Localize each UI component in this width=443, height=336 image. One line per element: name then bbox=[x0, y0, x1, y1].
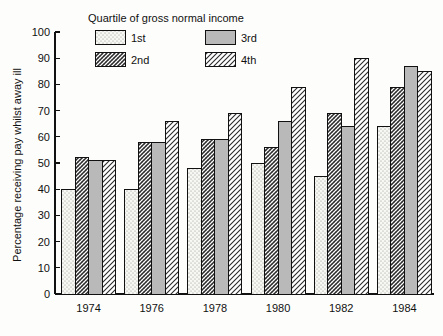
bar bbox=[75, 158, 89, 294]
legend-label: 4th bbox=[241, 54, 256, 66]
bar bbox=[391, 87, 405, 294]
bar bbox=[377, 126, 391, 294]
y-tick-label: 90 bbox=[38, 52, 50, 64]
legend-title: Quartile of gross normal income bbox=[88, 12, 244, 24]
y-tick-label: 40 bbox=[38, 183, 50, 195]
x-axis: 197419761978198019821984 bbox=[55, 294, 434, 314]
chart-figure: 0102030405060708090100 19741976197819801… bbox=[0, 0, 443, 336]
x-tick-label: 1982 bbox=[329, 302, 353, 314]
y-tick-label: 30 bbox=[38, 209, 50, 221]
y-axis: 0102030405060708090100 bbox=[32, 26, 60, 300]
bar bbox=[292, 87, 306, 294]
y-tick-label: 100 bbox=[32, 26, 50, 38]
y-tick-label: 80 bbox=[38, 78, 50, 90]
bar bbox=[265, 147, 279, 294]
x-tick-label: 1980 bbox=[266, 302, 290, 314]
bar bbox=[102, 160, 116, 294]
legend-swatch bbox=[205, 52, 235, 66]
legend-swatch bbox=[95, 52, 125, 66]
bar bbox=[138, 142, 152, 294]
legend-label: 3rd bbox=[241, 32, 257, 44]
bar bbox=[251, 163, 264, 294]
y-tick-label: 10 bbox=[38, 262, 50, 274]
bar bbox=[152, 142, 166, 294]
bar bbox=[228, 113, 242, 294]
bar bbox=[188, 168, 202, 294]
x-tick-label: 1984 bbox=[392, 302, 416, 314]
y-tick-label: 50 bbox=[38, 157, 50, 169]
bars-layer bbox=[62, 58, 432, 294]
x-tick-label: 1978 bbox=[203, 302, 227, 314]
bar bbox=[201, 139, 215, 294]
bar-chart-canvas: 0102030405060708090100 19741976197819801… bbox=[0, 0, 443, 336]
bar bbox=[355, 58, 369, 294]
x-tick-label: 1976 bbox=[140, 302, 164, 314]
bar bbox=[341, 126, 355, 294]
bar bbox=[165, 121, 179, 294]
legend-swatch bbox=[205, 30, 235, 44]
y-axis-title: Percentage receiving pay whilst away ill bbox=[11, 68, 23, 262]
legend-label: 1st bbox=[131, 32, 146, 44]
bar bbox=[215, 139, 229, 294]
bar bbox=[125, 189, 139, 294]
bar bbox=[404, 66, 418, 294]
bar bbox=[89, 160, 103, 294]
legend-label: 2nd bbox=[131, 54, 149, 66]
bar bbox=[62, 189, 75, 294]
bar bbox=[278, 121, 292, 294]
y-tick-label: 20 bbox=[38, 236, 50, 248]
bar bbox=[314, 176, 328, 294]
y-tick-label: 0 bbox=[44, 288, 50, 300]
bar bbox=[418, 71, 432, 294]
y-tick-label: 60 bbox=[38, 131, 50, 143]
y-tick-label: 70 bbox=[38, 105, 50, 117]
legend-swatch bbox=[95, 30, 125, 44]
chart-legend: Quartile of gross normal income1st3rd2nd… bbox=[88, 12, 257, 66]
bar bbox=[328, 113, 342, 294]
x-tick-label: 1974 bbox=[76, 302, 100, 314]
